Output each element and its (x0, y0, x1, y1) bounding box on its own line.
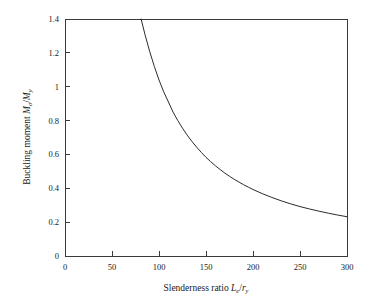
x-tick-label: 50 (108, 262, 117, 272)
y-tick-label: 1.4 (48, 14, 59, 24)
x-axis-title: Slenderness ratio Le/ry (163, 283, 248, 294)
y-tick-label: 0.6 (48, 149, 59, 159)
y-axis-title: Buckling moment Mo/My (22, 89, 33, 185)
svg-text:Buckling moment Mo/My: Buckling moment Mo/My (22, 89, 33, 185)
chart-figure: 0 0.2 0.4 0.6 0.8 1 1.2 1.4 0 50 100 150… (0, 0, 376, 308)
y-tick-label: 1 (55, 82, 59, 92)
x-tick-label: 300 (341, 262, 354, 272)
y-axis-var2-sub: y (26, 89, 33, 93)
y-tick-label: 0.8 (48, 116, 59, 126)
x-axis-title-text: Slenderness ratio (163, 283, 231, 293)
chart-svg: 0 0.2 0.4 0.6 0.8 1 1.2 1.4 0 50 100 150… (0, 0, 376, 308)
x-tick-label: 150 (200, 262, 213, 272)
svg-text:Slenderness ratio Le/ry: Slenderness ratio Le/ry (163, 283, 248, 294)
x-tick-label: 100 (153, 262, 166, 272)
y-tick-label: 1.2 (48, 48, 59, 58)
y-axis-title-text: Buckling moment (22, 114, 32, 185)
x-tick-label: 200 (247, 262, 260, 272)
x-tick-label: 250 (294, 262, 307, 272)
x-tick-label: 0 (63, 262, 67, 272)
y-tick-label: 0 (55, 251, 59, 261)
x-axis-var2-sub: y (245, 287, 249, 294)
y-tick-label: 0.2 (48, 217, 59, 227)
y-tick-label: 0.4 (48, 183, 59, 193)
